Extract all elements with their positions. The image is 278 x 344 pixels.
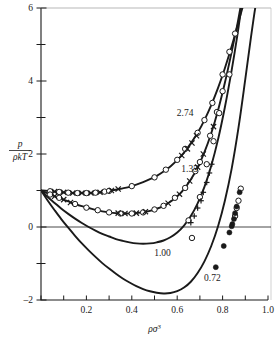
marker-open-circle-1.35 — [72, 201, 77, 206]
y-axis-label-denominator: ρkT — [12, 152, 28, 162]
marker-open-circle-2.74 — [129, 183, 134, 188]
curve-label-0.72: 0.72 — [204, 273, 221, 283]
marker-open-circle-1.00 — [197, 194, 202, 199]
curve-label-2.74: 2.74 — [177, 108, 194, 118]
marker-open-circle-1.35 — [152, 207, 157, 212]
marker-open-circle-1.35 — [95, 208, 100, 213]
x-tick-label: 1.0 — [262, 305, 274, 315]
y-tick-label: 0 — [28, 222, 33, 232]
marker-open-circle-1.35 — [106, 210, 111, 215]
marker-filled-circle-0.72 — [233, 211, 238, 216]
marker-filled-circle-0.72 — [221, 243, 226, 248]
marker-filled-circle-0.72 — [234, 204, 239, 209]
marker-filled-circle-0.72 — [227, 230, 232, 235]
marker-open-circle-1.00 — [227, 72, 232, 77]
marker-open-circle-1.00 — [189, 235, 194, 240]
marker-filled-circle-0.72 — [237, 190, 242, 195]
figure-container: –202460.20.40.60.81.0 2.741.351.000.72 p… — [0, 0, 278, 344]
marker-open-circle-2.74 — [227, 49, 232, 54]
y-tick-label: –2 — [23, 295, 34, 305]
marker-open-circle-2.74 — [163, 167, 168, 172]
y-tick-label: 6 — [28, 3, 33, 13]
marker-open-circle-1.35 — [84, 205, 89, 210]
marker-open-circle-1.00 — [216, 110, 221, 115]
marker-open-circle-2.74 — [210, 100, 215, 105]
x-tick-label: 0.6 — [171, 305, 183, 315]
curve-label-1.35: 1.35 — [181, 164, 198, 174]
marker-filled-circle-0.72 — [229, 224, 234, 229]
y-tick-label: 4 — [28, 76, 33, 86]
marker-open-circle-2.74 — [232, 31, 237, 36]
chart-background — [0, 0, 278, 344]
y-axis-label-numerator: p — [17, 139, 23, 149]
marker-open-circle-1.00 — [204, 162, 209, 167]
marker-filled-circle-0.72 — [231, 216, 236, 221]
compressibility-factor-chart: –202460.20.40.60.81.0 2.741.351.000.72 p… — [0, 0, 278, 344]
marker-open-circle-1.35 — [207, 133, 212, 138]
marker-open-circle-1.35 — [197, 159, 202, 164]
marker-open-circle-2.74 — [202, 117, 207, 122]
curve-label-1.00: 1.00 — [154, 248, 171, 258]
marker-filled-circle-0.72 — [213, 265, 218, 270]
x-tick-label: 0.4 — [126, 305, 138, 315]
marker-open-circle-2.74 — [152, 175, 157, 180]
x-tick-label: 0.8 — [217, 305, 229, 315]
marker-open-circle-2.74 — [220, 72, 225, 77]
marker-open-circle-1.35 — [220, 89, 225, 94]
marker-open-circle-1.35 — [172, 195, 177, 200]
marker-open-circle-1.35 — [182, 185, 187, 190]
marker-open-circle-1.00 — [211, 139, 216, 144]
marker-open-circle-0.72 — [236, 198, 241, 203]
x-tick-label: 0.2 — [80, 305, 92, 315]
